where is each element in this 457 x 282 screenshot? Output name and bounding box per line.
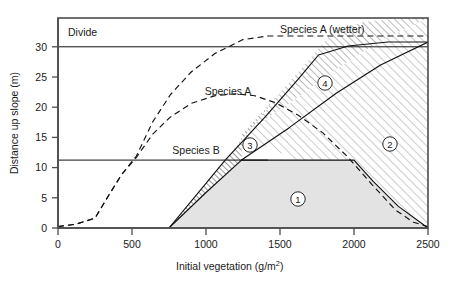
x-tick-labels: 0 500 1000 1500 2000 2500 — [55, 238, 440, 250]
x-tick-label-2000: 2000 — [342, 238, 366, 250]
region-badge-1: 1 — [291, 192, 305, 206]
region-badge-2-label: 2 — [387, 139, 392, 150]
x-tick-label-500: 500 — [123, 238, 141, 250]
x-axis-title-tail: ) — [280, 260, 284, 272]
region-badge-3: 3 — [243, 138, 257, 152]
y-tick-label-5: 5 — [41, 192, 47, 204]
region-badge-3-label: 3 — [247, 140, 252, 151]
y-tick-label-30: 30 — [35, 41, 47, 53]
region-badge-1-label: 1 — [295, 194, 300, 205]
figure-container: 0 5 10 15 20 25 30 0 500 1000 1500 2000 … — [0, 0, 457, 282]
y-tick-label-20: 20 — [35, 101, 47, 113]
x-axis-ticks — [58, 228, 428, 235]
x-axis-title-main: Initial vegetation (g/m — [176, 260, 276, 272]
x-tick-label-2500: 2500 — [416, 238, 440, 250]
y-tick-label-15: 15 — [35, 131, 47, 143]
annotation-species-a: Species A — [205, 85, 252, 97]
region-badge-2: 2 — [383, 137, 397, 151]
x-tick-label-1500: 1500 — [268, 238, 292, 250]
y-tick-label-25: 25 — [35, 71, 47, 83]
svg-text:Initial vegetation (g/m2): Initial vegetation (g/m2) — [176, 259, 283, 272]
y-axis-ticks — [52, 47, 58, 228]
region-badge-4-label: 4 — [322, 78, 327, 89]
chart-canvas: 0 5 10 15 20 25 30 0 500 1000 1500 2000 … — [0, 0, 457, 282]
x-tick-label-1000: 1000 — [194, 238, 218, 250]
y-tick-label-10: 10 — [35, 161, 47, 173]
annotation-species-a-wetter: Species A (wetter) — [280, 23, 365, 35]
x-axis-title: Initial vegetation (g/m2) — [176, 259, 283, 272]
annotation-divide: Divide — [68, 26, 97, 38]
annotation-species-b: Species B — [172, 144, 219, 156]
y-tick-labels: 0 5 10 15 20 25 30 — [35, 41, 47, 234]
x-tick-label-0: 0 — [55, 238, 61, 250]
region-badge-4: 4 — [318, 76, 332, 90]
y-tick-label-0: 0 — [41, 222, 47, 234]
y-axis-title: Distance up slope (m) — [8, 72, 20, 174]
